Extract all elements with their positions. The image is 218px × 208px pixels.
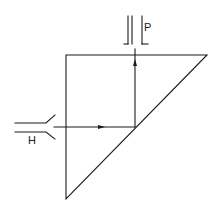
arrow-right-icon <box>98 125 105 129</box>
label-p: P <box>144 21 151 33</box>
label-h: H <box>28 134 36 146</box>
arrow-up-icon <box>133 59 137 66</box>
prism-diagram: P H <box>0 0 218 208</box>
